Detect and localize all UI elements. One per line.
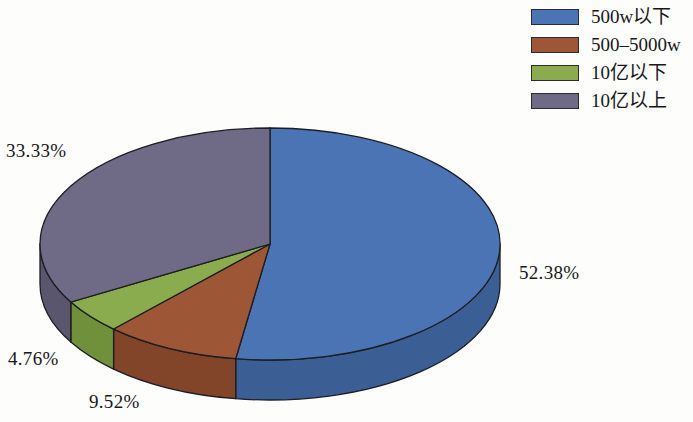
legend-item-label: 10亿以下 xyxy=(591,64,667,81)
legend-color-swatch xyxy=(531,93,579,109)
slice-value-label-500w-yixia: 52.38% xyxy=(519,262,579,284)
legend-item[interactable]: 10亿以上 xyxy=(531,92,693,109)
legend-item[interactable]: 500w以下 xyxy=(531,8,693,25)
chart-legend: 500w以下500–5000w10亿以下10亿以上 xyxy=(531,8,693,120)
legend-color-swatch xyxy=(531,9,579,25)
slice-value-label-500-5000w: 9.52% xyxy=(89,391,140,413)
slice-value-label-10yi-yixia: 4.76% xyxy=(8,348,59,370)
legend-color-swatch xyxy=(531,37,579,53)
legend-item-label: 500w以下 xyxy=(591,8,671,25)
legend-color-swatch xyxy=(531,65,579,81)
pie-top-slices xyxy=(40,128,500,360)
legend-item[interactable]: 10亿以下 xyxy=(531,64,693,81)
legend-item[interactable]: 500–5000w xyxy=(531,36,693,53)
legend-item-label: 500–5000w xyxy=(591,36,681,53)
legend-item-label: 10亿以上 xyxy=(591,92,667,109)
slice-value-label-10yi-yishang: 33.33% xyxy=(6,140,66,162)
pie-chart-figure: 33.33% 52.38% 4.76% 9.52% 500w以下500–5000… xyxy=(0,0,693,422)
